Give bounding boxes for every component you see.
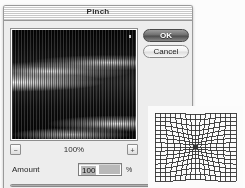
zoom-out-button[interactable]: − <box>10 144 21 155</box>
minus-icon: − <box>13 146 17 153</box>
ok-button[interactable]: OK <box>143 29 189 42</box>
amount-label: Amount <box>12 165 40 174</box>
dialog-titlebar[interactable]: Pinch <box>4 6 192 21</box>
preview-zoom-controls: − 100% + <box>10 144 138 156</box>
amount-input-value: 100 <box>81 166 96 175</box>
preview-image-hotspot <box>129 35 131 38</box>
plus-icon: + <box>130 146 134 153</box>
dialog-buttons: OK Cancel <box>143 29 189 61</box>
pinch-grid-svg <box>148 106 243 188</box>
dialog-title: Pinch <box>4 7 192 16</box>
zoom-level-label: 100% <box>24 145 124 154</box>
preview-image-highlight-stripes <box>12 30 136 139</box>
amount-unit-label: % <box>126 166 132 173</box>
pinch-grid-preview <box>148 106 243 188</box>
zoom-in-button[interactable]: + <box>127 144 138 155</box>
image-preview-canvas[interactable] <box>12 30 136 139</box>
cancel-button[interactable]: Cancel <box>143 45 189 58</box>
screenshot-root: Pinch − 100% + Amount <box>0 0 245 188</box>
image-preview-frame[interactable] <box>10 28 138 141</box>
amount-input[interactable]: 100 <box>78 163 122 176</box>
amount-input-selection <box>99 165 120 174</box>
